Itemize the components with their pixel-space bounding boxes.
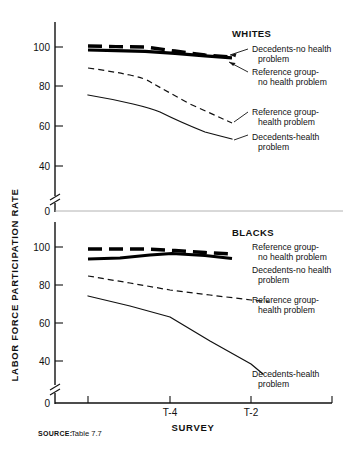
ytick-label-60-blacks: 60: [39, 318, 51, 329]
y-axis-title: LABOR FORCE PARTICIPATION RATE: [9, 189, 20, 382]
ytick-label-60-whites: 60: [39, 121, 51, 132]
series-whites-reference-health: [88, 68, 232, 123]
series-blacks-reference-health: [88, 276, 270, 302]
legend-blacks-reference-health-line2: health problem: [258, 305, 315, 315]
legend-blacks-decedents-no-health-line1: Decedents-no health: [252, 265, 332, 275]
ytick-label-0-blacks: 0: [44, 398, 50, 409]
ytick-label-0-whites: 0: [44, 206, 50, 217]
legend-blacks-reference-no-health-line1: Reference group-: [252, 242, 319, 252]
legend-blacks-decedents-health-line1: Decedents-health: [252, 369, 320, 379]
ytick-label-80-blacks: 80: [39, 280, 51, 291]
series-whites-decedents-health: [88, 95, 232, 139]
ytick-label-100-blacks: 100: [33, 242, 50, 253]
x-axis-title: SURVEY: [171, 422, 214, 433]
ytick-label-80-whites: 80: [39, 81, 51, 92]
ytick-label-40-whites: 40: [39, 161, 51, 172]
xtick-label-t2: T-2: [244, 407, 259, 418]
legend-whites-decedents-no-health-line1: Decedents-no health: [252, 44, 332, 54]
legend-whites-reference-no-health-line1: Reference group-: [252, 67, 319, 77]
legend-whites-reference-health-line1: Reference group-: [252, 107, 319, 117]
legend-whites-decedents-health-line1: Decedents-health: [252, 132, 320, 142]
chart-svg: 100 80 60 40 0 WHITES Dece: [0, 0, 343, 450]
panel-whites: 100 80 60 40 0 WHITES Dece: [33, 22, 343, 217]
leader-arrow-reference-no-health: [229, 62, 236, 66]
series-whites-reference-no-health: [88, 50, 232, 58]
legend-whites-reference-health-line2: health problem: [258, 117, 315, 127]
legend-whites-decedents-health-line2: problem: [258, 142, 289, 152]
figure-container: 100 80 60 40 0 WHITES Dece: [0, 0, 343, 450]
leader-line-decedents-health: [234, 135, 248, 140]
panel-blacks: 100 80 60 40 0 T-4 T-2 BLACKS Refer: [33, 222, 332, 418]
panel-title-blacks: BLACKS: [232, 227, 274, 238]
ytick-label-100-whites: 100: [33, 42, 50, 53]
legend-blacks-decedents-health-line2: problem: [258, 379, 289, 389]
legend-whites-reference-no-health-line2: no health problem: [258, 77, 327, 87]
leader-line-reference-health: [234, 112, 248, 122]
legend-blacks-decedents-no-health-line2: problem: [258, 275, 289, 285]
ytick-label-40-blacks: 40: [39, 356, 51, 367]
xtick-label-t4: T-4: [163, 407, 178, 418]
source-value: Table 7.7: [71, 429, 102, 438]
series-blacks-decedents-health: [88, 296, 263, 374]
leader-line-decedents-no-health: [230, 49, 248, 55]
source-label: SOURCE:: [38, 430, 72, 437]
legend-blacks-reference-no-health-line2: no health problem: [258, 252, 327, 262]
legend-whites-decedents-no-health-line2: problem: [258, 54, 289, 64]
panel-title-whites: WHITES: [232, 28, 271, 39]
series-blacks-decedents-no-health: [88, 254, 232, 260]
legend-blacks-reference-health-line1: Reference group-: [252, 295, 319, 305]
